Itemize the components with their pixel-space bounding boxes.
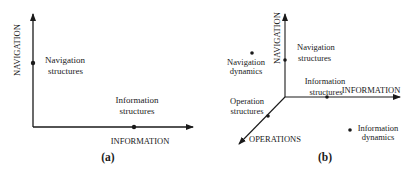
navigation-structures-point — [31, 61, 35, 65]
information-structures-label-line2: structures — [309, 87, 342, 97]
navigation-structures-label-line2: structures — [298, 53, 331, 63]
information-dynamics-label-line2: dynamics — [362, 132, 395, 142]
navigation-structures-label-line1: Navigation — [45, 55, 85, 65]
panel-b-caption: (b) — [318, 151, 332, 164]
navigation-axis-label: NAVIGATION — [12, 24, 22, 76]
information-structures-label-line1: Information — [305, 76, 346, 86]
panel-b: NAVIGATION INFORMATION OPERATIONS Naviga… — [227, 12, 400, 164]
information-structures-label-line2: structures — [120, 106, 155, 116]
navigation-dynamics-label-line2: dynamics — [230, 66, 263, 76]
operation-structures-label-line1: Operation — [230, 96, 265, 106]
panel-a: NAVIGATION INFORMATION Navigation struct… — [12, 14, 193, 164]
navigation-structures-label-line2: structures — [48, 66, 83, 76]
operation-structures-point — [266, 114, 270, 118]
information-axis-label: INFORMATION — [111, 136, 170, 146]
diagram-canvas: NAVIGATION INFORMATION Navigation struct… — [0, 0, 415, 174]
operation-structures-label-line2: structures — [230, 106, 263, 116]
panel-a-caption: (a) — [101, 151, 115, 164]
navigation-axis-label: NAVIGATION — [272, 12, 282, 64]
information-axis-label: INFORMATION — [342, 85, 401, 95]
information-structures-point — [132, 125, 136, 129]
operations-axis-label: OPERATIONS — [249, 134, 301, 144]
information-structures-label-line1: Information — [116, 95, 159, 105]
information-dynamics-point — [348, 128, 352, 132]
navigation-structures-label-line1: Navigation — [297, 42, 336, 52]
navigation-structures-point — [283, 58, 287, 62]
navigation-dynamics-point — [250, 51, 254, 55]
